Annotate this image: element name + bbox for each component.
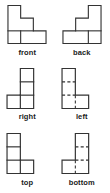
front-outline-group (8, 5, 46, 43)
view-bottom-svg (59, 132, 105, 175)
view-back-figure (59, 4, 105, 45)
view-left-figure (59, 67, 105, 110)
view-top-svg (4, 132, 50, 175)
view-right-label: right (19, 112, 36, 121)
view-front: front (0, 0, 55, 64)
left-hidden-lines-group (62, 82, 75, 109)
view-bottom-figure (59, 132, 105, 175)
view-right: right (0, 64, 55, 128)
view-left: left (55, 64, 110, 128)
view-right-figure (4, 67, 50, 110)
view-front-figure (4, 4, 50, 45)
orthographic-views-sheet: front back (0, 0, 109, 193)
view-front-svg (4, 4, 50, 45)
view-top: top (0, 129, 55, 193)
front-outline (8, 5, 46, 43)
view-left-svg (59, 67, 105, 110)
back-outline-group (63, 5, 101, 43)
view-top-figure (4, 132, 50, 175)
top-outline-group (7, 133, 34, 173)
bottom-hidden-lines-group (75, 147, 88, 174)
view-back-label: back (73, 48, 91, 57)
view-left-label: left (76, 112, 88, 121)
view-top-label: top (21, 178, 33, 187)
right-outline-group (7, 69, 34, 109)
view-back: back (55, 0, 110, 64)
view-front-label: front (18, 48, 36, 57)
view-back-svg (59, 4, 105, 45)
view-right-svg (4, 67, 50, 110)
view-bottom: bottom (55, 129, 110, 193)
back-outline (63, 5, 101, 43)
views-grid: front back (0, 0, 109, 193)
view-bottom-label: bottom (69, 178, 95, 187)
